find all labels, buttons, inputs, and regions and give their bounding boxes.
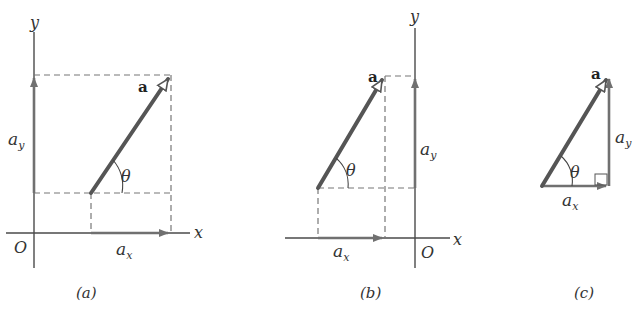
panel-caption: (c) <box>574 284 594 302</box>
y-component-label: ay <box>615 127 632 150</box>
x-axis-label: x <box>194 223 203 242</box>
origin-label: O <box>14 238 27 257</box>
x-axis-label: x <box>453 230 462 249</box>
vector-label: a <box>368 68 378 86</box>
vector-components-diagram: y x O a θ ay ax (a) y x O a θ ay ax (b) … <box>0 0 635 313</box>
panel-b: y x O a θ ay ax (b) <box>285 7 462 302</box>
y-axis-label: y <box>29 13 40 32</box>
panel-caption: (a) <box>76 284 97 302</box>
y-component-label: ay <box>8 129 25 152</box>
panel-a: y x O a θ ay ax (a) <box>6 13 203 302</box>
y-component-label: ay <box>420 139 437 162</box>
panel-caption: (b) <box>360 284 381 302</box>
angle-label: θ <box>121 167 131 186</box>
x-component-label: ax <box>333 241 350 264</box>
x-component-label: ax <box>116 239 133 262</box>
angle-label: θ <box>346 161 356 180</box>
y-axis-label: y <box>409 7 420 26</box>
panel-c: a θ ay ax (c) <box>542 65 632 302</box>
vector-label: a <box>591 65 601 83</box>
angle-label: θ <box>570 163 580 182</box>
x-component-label: ax <box>562 190 579 213</box>
vector-label: a <box>138 78 148 96</box>
origin-label: O <box>421 243 434 262</box>
right-angle-marker <box>595 174 607 185</box>
